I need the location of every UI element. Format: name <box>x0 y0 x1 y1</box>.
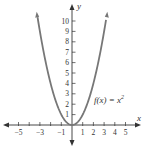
y-axis-label: y <box>76 1 81 11</box>
x-tick-label: 4 <box>113 128 117 137</box>
y-tick-label: 4 <box>65 79 69 88</box>
x-tick-label: −1 <box>57 128 65 137</box>
x-axis-right-arrow-icon <box>135 123 141 128</box>
x-tick-label: 1 <box>81 128 85 137</box>
y-tick-label: 6 <box>65 58 69 67</box>
x-tick-label: 2 <box>92 128 96 137</box>
y-tick-label: 1 <box>65 110 69 119</box>
y-tick-label: 8 <box>65 37 69 46</box>
y-axis-up-arrow-icon <box>70 4 75 10</box>
y-axis-down-arrow-icon <box>70 140 75 146</box>
y-tick-label: 5 <box>65 69 69 78</box>
y-tick-label: 10 <box>62 17 70 26</box>
parabola-chart: −5−3−11234512345678910 x y f(x) = x2 <box>0 0 144 156</box>
x-axis-label: x <box>136 113 141 123</box>
x-tick-label: −5 <box>15 128 23 137</box>
function-label-base: f(x) = x <box>94 95 121 105</box>
tick-labels: −5−3−11234512345678910 <box>15 17 128 138</box>
y-tick-label: 3 <box>65 89 69 98</box>
y-tick-label: 2 <box>65 100 69 109</box>
y-tick-label: 7 <box>65 48 69 57</box>
x-tick-label: 3 <box>102 128 106 137</box>
function-label: f(x) = x2 <box>94 94 124 105</box>
y-tick-label: 9 <box>65 27 69 36</box>
function-label-exponent: 2 <box>121 94 124 100</box>
x-axis-left-arrow-icon <box>3 123 9 128</box>
x-tick-label: 5 <box>124 128 128 137</box>
x-tick-label: −3 <box>36 128 44 137</box>
curve-right-arrow-icon <box>105 12 109 18</box>
curve-left-arrow-icon <box>35 12 39 18</box>
